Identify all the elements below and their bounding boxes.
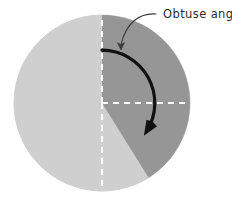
diagram-canvas: Obtuse angle xyxy=(0,0,232,198)
obtuse-angle-figure: Obtuse angle xyxy=(0,0,232,198)
obtuse-angle-label: Obtuse angle xyxy=(163,7,232,21)
